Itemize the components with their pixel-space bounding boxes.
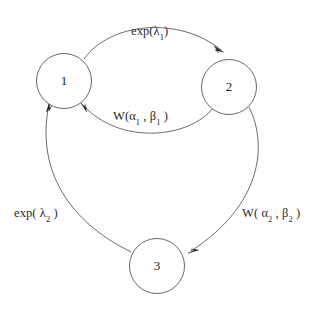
edge-2-to-3 <box>188 107 258 253</box>
edge-label-2-to-1-close: ) <box>160 109 168 123</box>
edge-2-to-3-path <box>191 107 258 251</box>
edge-label-3-to-1: exp( λ2 ) <box>14 207 58 223</box>
edge-label-2-to-1: W(α1 , β1 ) <box>113 110 168 126</box>
diagram-canvas: 1 2 3 <box>0 0 314 309</box>
node-2-label: 2 <box>226 79 233 94</box>
edge-3-to-1-path <box>46 104 131 252</box>
edge-1-to-2-arrowhead <box>214 46 223 53</box>
edge-label-2-to-1-comma: , <box>140 109 150 123</box>
edge-label-2-to-1-w: W( <box>113 109 129 123</box>
state-transition-diagram: 1 2 3 exp(λ1) W(α1 , β1 ) W( α2 , β2 ) e… <box>0 0 314 309</box>
edge-label-3-to-1-close: ) <box>50 206 58 220</box>
edge-label-2-to-3-close: ) <box>293 206 301 220</box>
edge-label-1-to-2-close: ) <box>164 24 168 38</box>
edge-label-2-to-3-w: W( <box>242 206 261 220</box>
node-3-label: 3 <box>154 258 161 273</box>
node-1-label: 1 <box>61 73 68 88</box>
node-2[interactable]: 2 <box>202 60 257 115</box>
node-3[interactable]: 3 <box>130 239 185 294</box>
edge-label-2-to-1-alpha: α <box>129 109 136 123</box>
edge-label-3-to-1-base: exp( λ <box>14 206 46 220</box>
edge-label-1-to-2-base: exp(λ <box>131 24 160 38</box>
edge-label-2-to-3: W( α2 , β2 ) <box>242 207 300 223</box>
edge-2-to-1-arrowhead <box>81 102 87 111</box>
edge-label-2-to-3-comma: , <box>272 206 282 220</box>
node-1[interactable]: 1 <box>37 54 92 109</box>
edge-label-1-to-2: exp(λ1) <box>131 25 168 41</box>
